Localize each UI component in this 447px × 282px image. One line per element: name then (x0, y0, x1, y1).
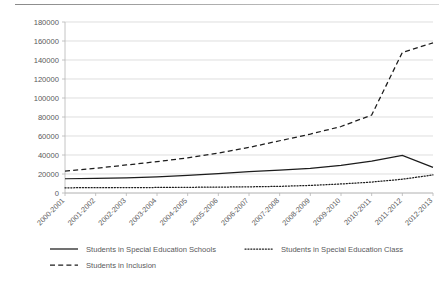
series-line-dotted (65, 175, 433, 188)
y-axis-tick-label: 120000 (34, 75, 59, 84)
y-axis-tick-label: 80000 (38, 113, 59, 122)
y-axis-tick-label: 180000 (34, 18, 59, 27)
x-axis-tick-label: 2007-2008 (250, 196, 281, 227)
legend-label-dashed: Students in Inclusion (86, 261, 156, 270)
y-axis-tick-label: 40000 (38, 151, 59, 160)
y-axis-tick-label: 140000 (34, 56, 59, 65)
x-axis-tick-label: 2002-2003 (96, 196, 127, 227)
x-axis-tick-label: 2006-2007 (219, 196, 250, 227)
x-axis-tick-label: 2012-2013 (403, 196, 434, 227)
chart-container: 0200004000060000800001000001200001400001… (0, 0, 447, 282)
x-axis-tick-label: 2008-2009 (280, 196, 311, 227)
y-axis-tick-label: 20000 (38, 170, 59, 179)
legend-label-dotted: Students in Special Education Class (281, 245, 403, 254)
x-axis-tick-label: 2001-2002 (66, 196, 97, 227)
x-axis-tick-label: 2000-2001 (35, 196, 66, 227)
x-axis-tick-label: 2004-2005 (158, 196, 189, 227)
legend-label-solid: Students in Special Education Schools (86, 245, 216, 254)
y-axis-tick-label: 100000 (34, 94, 59, 103)
y-axis-tick-label: 160000 (34, 37, 59, 46)
x-axis-tick-label: 2010-2011 (342, 196, 373, 227)
line-chart: 0200004000060000800001000001200001400001… (0, 0, 447, 282)
x-axis-tick-label: 2003-2004 (127, 196, 158, 227)
series-line-dashed (65, 43, 433, 171)
y-axis-tick-label: 60000 (38, 132, 59, 141)
x-axis-tick-label: 2005-2006 (188, 196, 219, 227)
x-axis-tick-label: 2009-2010 (311, 196, 342, 227)
x-axis-tick-label: 2011-2012 (373, 196, 404, 227)
series-line-solid (65, 155, 433, 178)
